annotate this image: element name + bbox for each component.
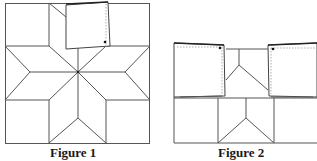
figure-1-dot-marker — [104, 41, 107, 44]
figure-1-center-dot — [77, 71, 79, 73]
figure-2-left-dot-marker — [219, 47, 222, 50]
figure-1-caption: Figure 1 — [50, 146, 96, 159]
figure-1-drawing — [0, 0, 317, 161]
figure-1-folded-square — [66, 2, 110, 49]
figure-2-right-dot-marker — [272, 48, 275, 51]
figure-2-left-folded-panel — [174, 43, 225, 97]
figure-2-right-folded-panel — [268, 43, 317, 97]
figure-2-caption: Figure 2 — [218, 146, 264, 159]
